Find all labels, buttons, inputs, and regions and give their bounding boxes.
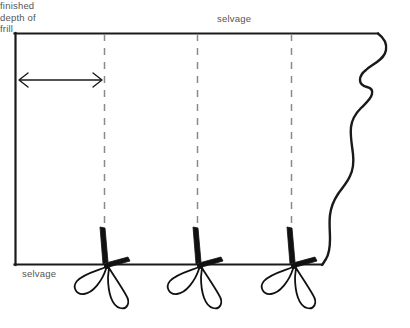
scissors-handle-left [262, 267, 293, 294]
fabric-wavy-right-edge [322, 34, 386, 266]
scissors-handle-right [201, 268, 221, 308]
selvage-bottom-label: selvage [22, 268, 56, 280]
scissors-handle-right [295, 268, 315, 308]
scissors-handle-left [75, 267, 106, 294]
scissors-2-icon [168, 227, 223, 308]
scissors-3-icon [262, 227, 317, 308]
frill-cutting-diagram [0, 0, 410, 328]
scissors-blade-upper [287, 227, 295, 264]
finished-depth-arrow [19, 73, 102, 87]
scissors-handle-right [108, 268, 128, 308]
scissors-1-icon [75, 227, 130, 308]
cut-lines-group [105, 34, 292, 250]
fabric-outline [15, 33, 387, 265]
scissors-blade-upper [100, 227, 108, 264]
scissors-blade-upper [193, 227, 201, 264]
scissors-handle-left [168, 267, 199, 294]
selvage-top-label: selvage [217, 13, 251, 25]
diagram-canvas: selvage selvage finished depth of frill [0, 0, 410, 328]
